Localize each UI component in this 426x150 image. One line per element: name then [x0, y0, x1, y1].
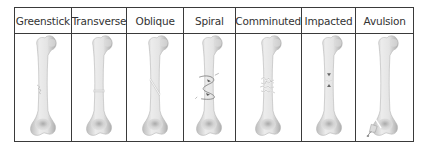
column-transverse: Transverse: [72, 8, 128, 141]
column-impacted: Impacted: [302, 8, 357, 141]
fracture-types-table: Greenstick Transverse Oblique: [14, 7, 414, 142]
header-transverse: Transverse: [72, 8, 127, 34]
column-oblique: Oblique: [127, 8, 184, 141]
bone-impacted-illustration: [302, 34, 356, 141]
column-greenstick: Greenstick: [15, 8, 72, 141]
header-comminuted: Comminuted: [236, 8, 301, 34]
header-avulsion: Avulsion: [356, 8, 413, 34]
bone-comminuted-illustration: [236, 34, 301, 141]
column-comminuted: Comminuted: [236, 8, 302, 141]
header-greenstick: Greenstick: [15, 8, 71, 34]
bone-avulsion-illustration: [356, 34, 413, 141]
column-avulsion: Avulsion: [356, 8, 413, 141]
bone-greenstick-illustration: [15, 34, 71, 141]
bone-transverse-illustration: [72, 34, 127, 141]
bone-spiral-illustration: [184, 34, 235, 141]
header-oblique: Oblique: [127, 8, 183, 34]
bone-oblique-illustration: [127, 34, 183, 141]
header-spiral: Spiral: [184, 8, 235, 34]
column-spiral: Spiral: [184, 8, 236, 141]
header-impacted: Impacted: [302, 8, 356, 34]
